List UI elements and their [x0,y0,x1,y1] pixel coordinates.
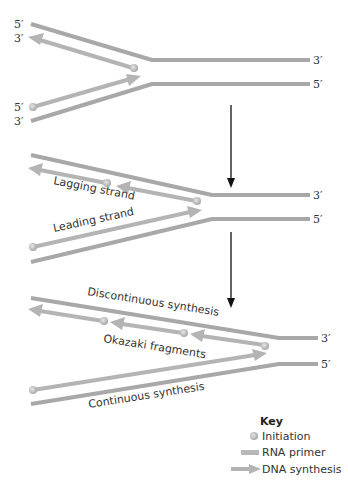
legend-rna-primer: RNA primer [262,446,326,459]
arrowhead-left-icon [28,163,43,176]
label-5prime: 5′ [321,358,331,371]
label-5prime: 5′ [313,213,323,226]
initiation-dot-icon [261,342,269,350]
legend-initiation: Initiation [262,430,310,443]
arrowhead-right-icon [252,349,267,361]
new-strand-bottom [33,79,130,107]
legend-dna-synthesis: DNA synthesis [262,463,342,476]
initiation-dot-icon [193,197,201,205]
arrowhead-right-icon [126,74,141,86]
label-3prime: 3′ [313,189,323,202]
replication-fork-diagram: 5′ 3′ 5′ 3′ 3′ 5′ Lagging strand Leading… [0,0,348,489]
initiation-dot-icon [29,243,37,251]
panel-okazaki: Discontinuous synthesis Okazaki fragment… [28,285,331,411]
discontinuous-synthesis-label: Discontinuous synthesis [87,285,221,319]
okazaki-fragment [122,324,183,333]
label-3prime: 3′ [14,32,24,45]
label-3prime: 3′ [313,54,323,67]
label-5prime: 5′ [14,18,24,31]
step-arrow-down-icon [227,105,235,188]
arrowhead-left-icon [28,33,44,45]
legend-title: Key [260,415,283,428]
label-5prime: 5′ [313,78,323,91]
panel-elongation: Lagging strand Leading strand 3′ 5′ [28,155,323,262]
legend: Key Initiation RNA primer DNA synthesis [231,415,342,476]
parental-strand-top [31,24,310,60]
initiation-dot-icon [130,64,138,72]
lagging-strand-label: Lagging strand [52,174,136,203]
arrowhead-left-icon [110,317,125,330]
leading-strand-label: Leading strand [52,205,135,235]
label-5prime: 5′ [14,101,24,114]
initiation-dot-icon [29,103,37,111]
okazaki-fragment [40,311,103,321]
initiation-dot-icon [29,386,37,394]
arrowhead-right-icon [249,464,261,474]
panel-initiation: 5′ 3′ 5′ 3′ 3′ 5′ [14,18,323,128]
label-3prime: 3′ [321,332,331,345]
okazaki-fragment [202,336,264,345]
arrowhead-right-icon [187,206,202,218]
label-3prime: 3′ [14,115,24,128]
parental-strand-bottom [31,84,310,121]
arrowhead-left-icon [190,329,205,342]
rna-primer-bar-icon [241,450,259,455]
new-strand-top [40,40,133,68]
step-arrow-down-icon [227,232,235,308]
okazaki-fragments-label: Okazaki fragments [103,332,208,361]
initiation-dot-icon [100,317,108,325]
initiation-dot-icon [250,432,258,440]
arrowhead-left-icon [28,304,43,317]
initiation-dot-icon [180,329,188,337]
